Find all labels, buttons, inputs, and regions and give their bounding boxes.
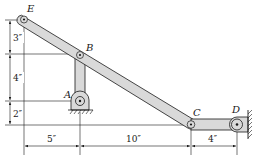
dim-10in: 10″ (126, 134, 141, 144)
link-ec (17, 15, 196, 129)
ground-hatch-icon (70, 110, 93, 114)
pin-c (187, 121, 195, 129)
pin-b (77, 52, 84, 59)
wall-hatch-icon (248, 110, 252, 138)
label-a: A (63, 89, 71, 100)
ground-support-a (68, 91, 93, 114)
dim-4in-vertical: 4″ (13, 73, 23, 83)
extension-lines (5, 20, 237, 155)
label-c: C (193, 107, 201, 118)
dim-3in: 3″ (13, 33, 23, 43)
dim-5in: 5″ (47, 134, 57, 144)
label-e: E (26, 3, 35, 14)
dim-4in-horizontal: 4″ (208, 134, 218, 144)
pin-e (21, 16, 28, 23)
label-d: D (231, 104, 240, 115)
label-b: B (85, 42, 93, 53)
linkage-diagram: 3″ 4″ 2″ 5″ 10″ 4″ (0, 0, 262, 162)
dim-2in: 2″ (13, 109, 23, 119)
pin-d (232, 119, 243, 130)
